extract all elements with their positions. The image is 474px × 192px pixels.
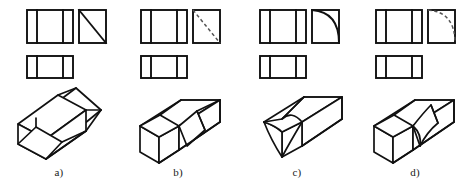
panel-d-isometric-pictorial	[374, 100, 454, 163]
panel-d: d)	[356, 0, 474, 192]
panel-b-front-view	[141, 10, 187, 43]
panel-c-front-view	[260, 10, 306, 43]
panel-a-label: a)	[0, 166, 118, 178]
panel-a-drawing	[0, 0, 118, 170]
panel-b-top-view	[141, 56, 187, 78]
panel-d-side-view	[428, 10, 455, 43]
drawing-sheet: a)	[0, 0, 474, 192]
panel-a: a)	[0, 0, 118, 192]
panel-b-label: b)	[119, 166, 237, 178]
panel-b-drawing	[119, 0, 237, 170]
panel-b-isometric-pictorial	[140, 100, 220, 163]
panel-b: b)	[119, 0, 237, 192]
panel-c: c)	[238, 0, 356, 192]
panel-a-isometric-pictorial	[18, 88, 101, 159]
panel-d-label: d)	[356, 166, 474, 178]
panel-d-top-view	[376, 56, 422, 78]
panel-b-side-view	[193, 10, 220, 43]
panel-a-front-view	[27, 10, 73, 43]
panel-d-front-view	[376, 10, 422, 43]
panel-a-top-view	[27, 56, 73, 78]
panel-c-isometric-pictorial	[264, 97, 342, 157]
panel-c-label: c)	[238, 166, 356, 178]
panel-d-drawing	[356, 0, 474, 170]
panel-a-side-view	[79, 10, 106, 43]
panel-c-drawing	[238, 0, 356, 170]
panel-c-top-view	[260, 56, 306, 78]
panel-c-side-view	[312, 10, 339, 43]
